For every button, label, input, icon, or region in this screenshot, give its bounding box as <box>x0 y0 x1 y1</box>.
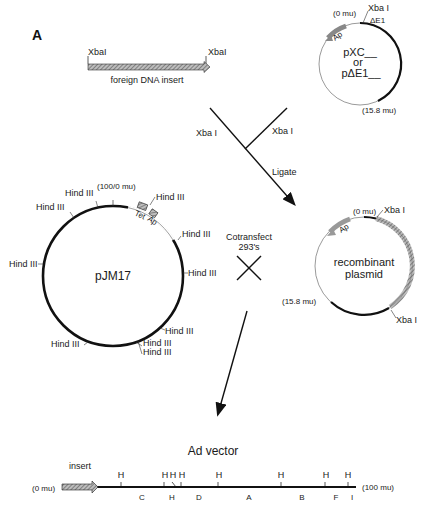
pjm17-name: pJM17 <box>95 269 131 283</box>
shuttle-start-mu: (0 mu) <box>333 9 356 18</box>
cotransfect-label-2: 293's <box>238 242 260 252</box>
ligate-label: Ligate <box>272 167 297 177</box>
pjm17-plasmid: Tet Ap (100/0 mu) pJM17 Hind III Hind II… <box>9 182 217 357</box>
recombinant-name-1: recombinant <box>334 256 395 268</box>
cotransfect-label-1: Cotransfect <box>226 232 273 242</box>
recombinant-start-mu: (0 mu) <box>353 207 376 216</box>
ad-fragment-a: A <box>246 493 252 502</box>
ad-fragment-h: H <box>169 493 175 502</box>
pjm17-hind-site-10: Hind III <box>51 339 80 349</box>
insert-left-site: XbaI <box>88 47 107 57</box>
ad-end-mu: (100 mu) <box>362 483 394 492</box>
insert-right-site: XbaI <box>208 47 227 57</box>
pjm17-hind-site-7: Hind III <box>165 326 194 336</box>
recombinant-xba-bottom: Xba I <box>396 315 417 325</box>
ad-fragment-c: C <box>139 493 145 502</box>
ad-h-site-7: H <box>323 470 330 480</box>
panel-label: A <box>32 27 42 43</box>
shuttle-deletion-label: ΔE1 <box>370 16 386 25</box>
insert-arrow-icon <box>88 62 210 73</box>
recombinant-xba-top: Xba I <box>384 205 405 215</box>
pjm17-hind-site-9: Hind III <box>143 347 172 357</box>
pjm17-hind-site-5: Hind III <box>188 268 217 278</box>
ligation-right-site: Xba I <box>272 126 293 136</box>
ad-h-site-6: H <box>278 470 285 480</box>
ad-fragment-b: B <box>299 493 304 502</box>
shuttle-name-3: pΔE1__ <box>341 67 381 79</box>
down-arrow-icon <box>218 311 247 414</box>
ad-insert-arrow-icon <box>62 481 98 493</box>
ad-h-site-8: H <box>345 470 352 480</box>
pjm17-hind-site-3: Hind III <box>156 192 185 202</box>
pjm17-hind-site-1: Hind III <box>65 188 94 198</box>
ad-h-site-1: H <box>118 470 125 480</box>
pjm17-position-mu: (100/0 mu) <box>97 182 136 191</box>
adenovirus-vector-construction-diagram: A XbaI XbaI foreign DNA insert Ap (0 mu)… <box>0 0 429 510</box>
ligation-step: Xba I Xba I Ligate <box>196 108 297 204</box>
ad-vector-map: Ad vector insert (0 mu) (100 mu) H H H H… <box>32 444 394 502</box>
shuttle-plasmid: Ap (0 mu) Xba I ΔE1 pXC__ or pΔE1__ (15.… <box>319 3 401 115</box>
pjm17-hind-site-4: Hind III <box>182 229 211 239</box>
ad-start-mu: (0 mu) <box>32 484 55 493</box>
ad-h-site-5: H <box>216 470 223 480</box>
ligation-left-site: Xba I <box>196 128 217 138</box>
ad-h-site-4: H <box>179 470 186 480</box>
recombinant-end-mu: (15.8 mu) <box>282 297 317 306</box>
pjm17-hind-site-2: Hind III <box>36 202 65 212</box>
recombinant-name-2: plasmid <box>345 268 383 280</box>
insert-label: foreign DNA insert <box>110 75 184 85</box>
ad-vector-title: Ad vector <box>188 444 239 458</box>
foreign-dna-insert: XbaI XbaI foreign DNA insert <box>88 47 227 85</box>
ad-insert-label: insert <box>69 461 92 471</box>
ad-fragment-i: I <box>351 493 353 502</box>
shuttle-xba-site: Xba I <box>368 3 389 13</box>
shuttle-end-mu: (15.8 mu) <box>362 106 397 115</box>
ad-h-site-2: H <box>162 470 169 480</box>
recombinant-plasmid: Ap (0 mu) Xba I recombinant plasmid (15.… <box>282 205 417 325</box>
pjm17-hind-site-6: Hind III <box>9 259 38 269</box>
ad-h-site-3: H <box>170 470 177 480</box>
cotransfect-step: Cotransfect 293's <box>226 232 273 280</box>
ad-fragment-f: F <box>334 493 339 502</box>
ad-fragment-d: D <box>196 493 202 502</box>
